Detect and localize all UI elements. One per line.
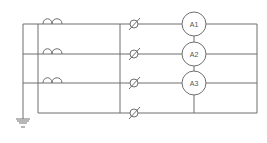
terminal-icon-2 (129, 48, 140, 60)
meter-label-a1: A1 (190, 21, 199, 28)
ground-icon (16, 119, 30, 127)
terminal-icon-3 (129, 77, 140, 89)
ammeter-a2: A2 (182, 42, 206, 66)
coil-icon-3 (43, 78, 62, 83)
coil-icon-1 (43, 19, 62, 24)
ammeter-a3: A3 (182, 71, 206, 95)
meter-label-a3: A3 (190, 80, 199, 87)
circuit-diagram: A1 A2 A3 (0, 0, 267, 143)
terminal-icon-1 (129, 18, 140, 30)
meter-label-a2: A2 (190, 51, 199, 58)
terminal-icon-4 (129, 107, 140, 119)
coil-icon-2 (43, 49, 62, 54)
ammeter-a1: A1 (182, 12, 206, 36)
